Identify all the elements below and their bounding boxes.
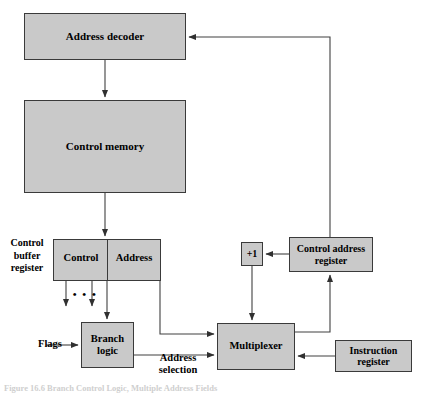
block-control-field-label: Control bbox=[55, 252, 107, 264]
block-instruction-register-label: Instruction register bbox=[336, 345, 411, 368]
label-control-buffer-register: Control buffer register bbox=[2, 237, 52, 275]
block-control-memory: Control memory bbox=[24, 100, 186, 193]
ellipsis-dots: • • • bbox=[64, 288, 106, 301]
block-address-field-label: Address bbox=[108, 252, 160, 264]
figure-caption: Figure 16.6 Branch Control Logic, Multip… bbox=[4, 383, 334, 393]
block-incrementer-label: +1 bbox=[247, 248, 258, 260]
edge-car-to-decoder bbox=[189, 37, 330, 237]
block-branch-logic: Branch logic bbox=[81, 322, 134, 368]
block-address-decoder-label: Address decoder bbox=[66, 30, 144, 43]
edge-mux-to-car bbox=[295, 275, 330, 332]
block-incrementer: +1 bbox=[241, 242, 263, 266]
block-branch-logic-label: Branch logic bbox=[82, 333, 133, 357]
block-multiplexer: Multiplexer bbox=[217, 323, 295, 370]
label-address-selection: Address selection bbox=[143, 352, 213, 376]
block-address-decoder: Address decoder bbox=[24, 13, 186, 60]
label-flags: Flags bbox=[31, 338, 69, 350]
block-control-memory-label: Control memory bbox=[66, 140, 144, 153]
block-control-address-register-label: Control address register bbox=[290, 243, 372, 266]
edge-address-to-mux bbox=[160, 281, 214, 334]
block-multiplexer-label: Multiplexer bbox=[229, 340, 282, 352]
block-instruction-register: Instruction register bbox=[335, 340, 412, 372]
block-control-address-register: Control address register bbox=[289, 237, 373, 272]
